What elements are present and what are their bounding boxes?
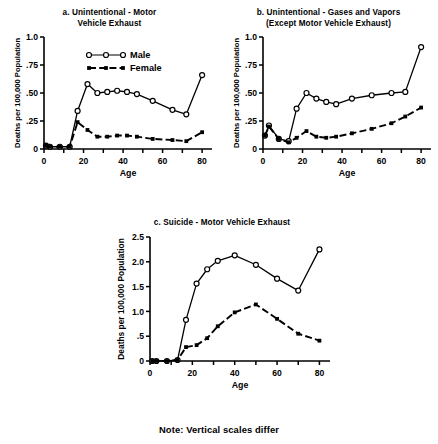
legend: MaleFemale — [87, 50, 162, 73]
series-line-male — [46, 75, 202, 147]
data-point-male — [205, 266, 210, 271]
data-point-male — [389, 91, 394, 96]
x-tick-label: 40 — [230, 367, 240, 377]
chart-panel-b: b. Unintentional - Gases and Vapors (Exc… — [219, 8, 438, 203]
data-point-female — [171, 138, 175, 142]
data-point-female — [135, 135, 139, 139]
data-point-female — [200, 130, 204, 134]
data-point-female — [216, 324, 220, 328]
x-tick-label: 20 — [188, 367, 198, 377]
data-point-female — [390, 121, 394, 125]
y-tick-label: .75 — [26, 60, 38, 70]
data-point-male — [314, 96, 319, 101]
legend-female-marker — [87, 66, 91, 70]
data-point-male — [294, 106, 299, 111]
legend-male-label: Male — [130, 50, 150, 60]
legend-male-marker — [104, 53, 109, 58]
legend-female-marker — [121, 66, 125, 70]
y-tick-label: 2.5 — [132, 232, 144, 242]
data-point-male — [232, 252, 237, 257]
data-point-female — [151, 137, 155, 141]
chart-a-svg: 0.25.50.751.0020406080AgeDeaths per 100,… — [0, 29, 219, 189]
x-tick-label: 20 — [79, 156, 89, 166]
data-point-female — [267, 125, 271, 129]
data-point-female — [176, 358, 180, 362]
legend-male-marker — [121, 53, 126, 58]
chart-b-title: b. Unintentional - Gases and Vapors (Exc… — [219, 8, 438, 29]
data-point-male — [349, 96, 354, 101]
data-point-female — [205, 336, 209, 340]
legend-male-marker — [87, 53, 92, 58]
data-point-male — [200, 73, 205, 78]
x-tick-label: 40 — [337, 156, 347, 166]
chart-c-title: c. Suicide - Motor Vehicle Exhaust — [104, 218, 340, 229]
x-tick-label: 80 — [315, 367, 325, 377]
data-point-female — [403, 115, 407, 119]
data-point-male — [334, 102, 339, 107]
y-tick-label: 1.0 — [26, 32, 38, 42]
chart-panel-a: a. Unintentional - Motor Vehicle Exhaust… — [0, 8, 219, 203]
x-tick-label: 0 — [42, 156, 47, 166]
data-point-female — [263, 134, 267, 138]
chart-c-plot-area: 0.51.01.52.02.5020406080AgeDeaths per 10… — [104, 229, 340, 404]
data-point-male — [296, 288, 301, 293]
data-point-female — [115, 134, 119, 138]
y-tick-label: .50 — [245, 88, 257, 98]
data-point-male — [215, 258, 220, 263]
data-point-female — [334, 135, 338, 139]
data-point-female — [195, 343, 199, 347]
data-point-female — [150, 359, 154, 363]
y-tick-label: 1.5 — [132, 281, 144, 291]
data-point-male — [125, 89, 130, 94]
y-tick-label: .5 — [137, 331, 144, 341]
y-tick-label: 2.0 — [132, 257, 144, 267]
data-point-male — [275, 276, 280, 281]
data-point-female — [233, 310, 237, 314]
data-point-male — [419, 45, 424, 50]
data-point-female — [86, 128, 90, 132]
data-point-male — [194, 281, 199, 286]
data-point-male — [85, 82, 90, 87]
data-point-female — [305, 129, 309, 133]
legend-female-label: Female — [130, 63, 162, 73]
data-point-male — [170, 107, 175, 112]
y-tick-label: .75 — [245, 60, 257, 70]
legend-female-marker — [104, 66, 108, 70]
x-tick-label: 20 — [298, 156, 308, 166]
x-tick-label: 40 — [118, 156, 128, 166]
data-point-female — [165, 359, 169, 363]
data-point-female — [105, 135, 109, 139]
x-tick-label: 0 — [148, 367, 153, 377]
data-point-female — [254, 302, 258, 306]
x-axis-title: Age — [232, 380, 249, 390]
series-line-male — [265, 47, 421, 141]
data-point-female — [277, 137, 281, 141]
data-point-female — [58, 145, 62, 149]
x-tick-label: 0 — [261, 156, 266, 166]
y-axis-title: Deaths per 100,000 Population — [116, 238, 126, 359]
data-point-female — [314, 135, 318, 139]
y-tick-label: .25 — [245, 116, 257, 126]
figure-panel-group: a. Unintentional - Motor Vehicle Exhaust… — [0, 0, 438, 444]
figure-note: Note: Vertical scales differ — [0, 424, 438, 435]
data-point-female — [125, 134, 129, 138]
data-point-female — [324, 136, 328, 140]
x-tick-label: 60 — [158, 156, 168, 166]
series-line-female — [46, 122, 202, 147]
data-point-female — [44, 144, 48, 148]
chart-a-plot-area: 0.25.50.751.0020406080AgeDeaths per 100,… — [0, 29, 219, 189]
data-point-female — [296, 331, 300, 335]
chart-c-svg: 0.51.01.52.02.5020406080AgeDeaths per 10… — [104, 229, 340, 404]
chart-panel-c: c. Suicide - Motor Vehicle Exhaust 0.51.… — [104, 218, 340, 418]
data-point-male — [324, 99, 329, 104]
data-point-female — [184, 345, 188, 349]
data-point-female — [287, 140, 291, 144]
x-tick-label: 80 — [416, 156, 426, 166]
data-point-male — [304, 91, 309, 96]
chart-a-title: a. Unintentional - Motor Vehicle Exhaust — [0, 8, 219, 29]
data-point-female — [318, 338, 322, 342]
series-line-female — [265, 108, 421, 143]
series-line-male — [152, 249, 319, 361]
y-tick-label: 0 — [33, 144, 38, 154]
data-point-male — [184, 112, 189, 117]
